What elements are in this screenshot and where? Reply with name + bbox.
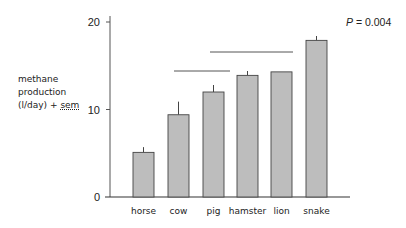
category-label-snake: snake: [303, 206, 330, 216]
y-tick-label: 0: [94, 191, 100, 203]
y-label-line-2: production: [18, 86, 79, 99]
bar-pig: [203, 92, 224, 197]
y-tick-label: 10: [88, 104, 100, 116]
y-tick-label: 20: [88, 16, 100, 28]
category-labels: horsecowpighamsterlionsnake: [131, 206, 330, 216]
bar-hamster: [237, 75, 258, 197]
bars: [133, 36, 327, 197]
p-value-annotation: P = 0.004: [346, 16, 391, 28]
y-label-line-1: methane: [18, 73, 79, 86]
y-axis-label: methane production (l/day) + sem: [18, 73, 79, 112]
y-label-line-3: (l/day) + sem: [18, 99, 79, 112]
category-label-hamster: hamster: [229, 206, 267, 216]
bar-snake: [306, 40, 327, 197]
category-label-horse: horse: [131, 206, 157, 216]
bar-lion: [271, 72, 292, 197]
category-label-pig: pig: [207, 206, 221, 216]
significance-brackets: [174, 52, 293, 71]
category-label-lion: lion: [273, 206, 289, 216]
bar-chart: 01020 horsecowpighamsterlionsnake: [0, 0, 406, 228]
bar-horse: [133, 152, 154, 197]
bar-cow: [168, 115, 189, 197]
category-label-cow: cow: [170, 206, 188, 216]
